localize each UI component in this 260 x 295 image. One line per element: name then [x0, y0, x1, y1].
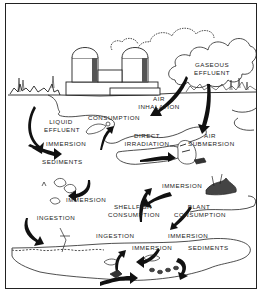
label-line: SHELLFISH — [108, 203, 158, 211]
label-sediments-left: SEDIMENTS — [42, 158, 82, 166]
right-shrubs — [186, 82, 256, 92]
label-line: CONSUMPTION — [88, 114, 138, 122]
shellfish-icon — [150, 266, 179, 274]
label-liquid-effluent: LIQUID EFFLUENT — [44, 118, 78, 133]
label-air-submersion: AIR SUBMERSION — [188, 132, 232, 147]
label-immersion-bottom: IMMERSION — [132, 244, 172, 252]
crab-icon — [110, 270, 122, 278]
water-surface — [12, 249, 104, 250]
label-immersion-right: IMMERSION — [162, 182, 202, 190]
label-line: EFFLUENT — [44, 126, 78, 134]
label-ingestion-left: INGESTION — [36, 214, 76, 222]
label-line: IRRADIATION — [124, 140, 170, 148]
label-line: SUBMERSION — [188, 140, 232, 148]
label-immersion-left: IMMERSION — [46, 140, 86, 148]
label-shellfish-consumption: SHELLFISH CONSUMPTION — [108, 203, 158, 218]
label-line: LIQUID — [44, 118, 78, 126]
label-line: EFFLUENT — [190, 69, 234, 77]
bird-icon — [60, 228, 70, 252]
label-line: IMMERSION — [132, 244, 172, 252]
label-line: PLANT — [174, 203, 224, 211]
label-direct-irradiation: DIRECT IRRADIATION — [124, 132, 170, 147]
arrow-ingestion-lower — [115, 250, 126, 272]
right-shore — [232, 108, 256, 130]
label-line: IMMERSION — [66, 196, 106, 204]
label-gaseous-effluent: GASEOUS EFFLUENT — [190, 61, 234, 76]
label-air-inhalation: AIR INHALATION — [136, 95, 182, 110]
label-consumption-top: CONSUMPTION — [88, 114, 138, 122]
label-line: AIR — [188, 132, 232, 140]
label-line: CONSUMPTION — [108, 211, 158, 219]
label-immersion-lower-right: IMMERSION — [168, 232, 208, 240]
label-line: INGESTION — [96, 232, 134, 240]
label-line: GASEOUS — [190, 61, 234, 69]
label-line: SEDIMENTS — [188, 244, 228, 252]
label-ingestion-lower: INGESTION — [96, 232, 134, 240]
label-line: IMMERSION — [162, 182, 202, 190]
label-sediments-bottom: SEDIMENTS — [188, 244, 228, 252]
left-shrubs — [10, 84, 60, 95]
label-line: SEDIMENTS — [42, 158, 82, 166]
label-immersion-ducks: IMMERSION — [66, 196, 106, 204]
label-line: IMMERSION — [168, 232, 208, 240]
label-line: CONSUMPTION — [174, 211, 224, 219]
plant-icon — [206, 174, 236, 195]
arrow-direct-irradiation — [140, 152, 176, 162]
power-plant — [66, 48, 160, 96]
label-line: INGESTION — [36, 214, 76, 222]
flow-arrows — [24, 76, 210, 286]
label-line: AIR — [136, 95, 182, 103]
arrow-ingestion-left — [24, 218, 44, 246]
arrow-air-submersion — [198, 84, 211, 134]
label-line: DIRECT — [124, 132, 170, 140]
plume-trail — [137, 28, 214, 60]
label-line: INHALATION — [136, 103, 182, 111]
label-line: IMMERSION — [46, 140, 86, 148]
label-plant-consumption: PLANT CONSUMPTION — [174, 203, 224, 218]
